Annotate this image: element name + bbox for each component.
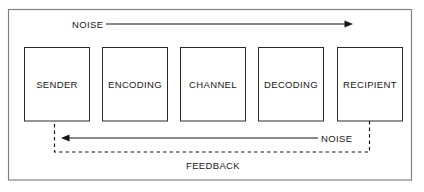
diagram-canvas: NOISE SENDER ENCODING CHANNEL DECODING R… — [0, 0, 424, 192]
communication-process-diagram: NOISE SENDER ENCODING CHANNEL DECODING R… — [0, 0, 424, 192]
node-label-channel: CHANNEL — [189, 79, 237, 90]
noise-top-label: NOISE — [72, 19, 103, 30]
node-label-recipient: RECIPIENT — [343, 79, 397, 90]
node-label-decoding: DECODING — [264, 79, 318, 90]
noise-bottom-label: NOISE — [321, 133, 352, 144]
node-label-sender: SENDER — [36, 79, 78, 90]
node-label-encoding: ENCODING — [108, 79, 162, 90]
feedback-label: FEEDBACK — [186, 160, 240, 171]
